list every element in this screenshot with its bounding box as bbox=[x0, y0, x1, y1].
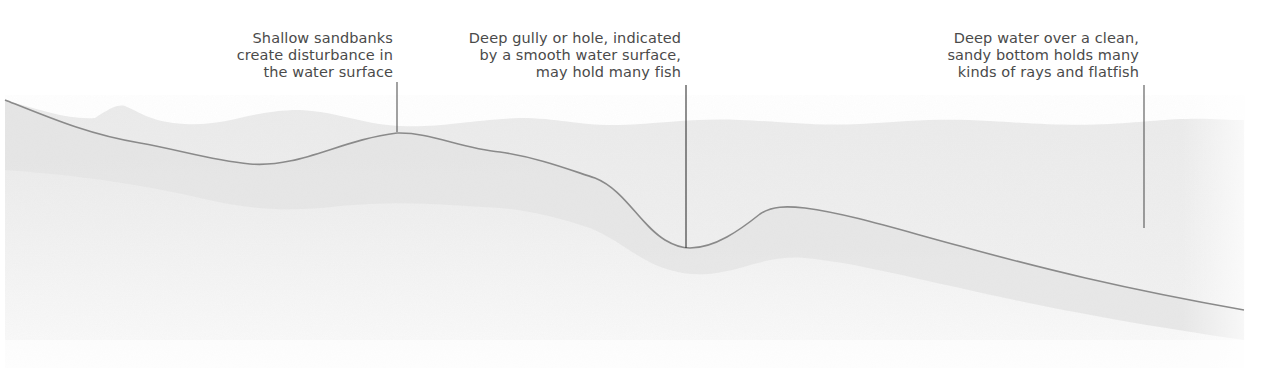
annotation-gully-line-1: Deep gully or hole, indicated bbox=[469, 30, 681, 47]
annotation-gully-line-2: by a smooth water surface, bbox=[469, 47, 681, 64]
annotation-gully: Deep gully or hole, indicated by a smoot… bbox=[469, 30, 681, 81]
annotation-sandbanks-line-1: Shallow sandbanks bbox=[237, 30, 393, 47]
annotation-deep-water: Deep water over a clean, sandy bottom ho… bbox=[947, 30, 1139, 81]
annotation-deep-water-line-1: Deep water over a clean, bbox=[947, 30, 1139, 47]
shoreline-cross-section-diagram: Shallow sandbanks create disturbance in … bbox=[0, 0, 1271, 368]
annotation-deep-water-line-2: sandy bottom holds many bbox=[947, 47, 1139, 64]
annotation-gully-line-3: may hold many fish bbox=[469, 64, 681, 81]
annotation-sandbanks-line-3: the water surface bbox=[237, 64, 393, 81]
annotation-deep-water-line-3: kinds of rays and flatfish bbox=[947, 64, 1139, 81]
annotation-sandbanks-line-2: create disturbance in bbox=[237, 47, 393, 64]
annotation-sandbanks: Shallow sandbanks create disturbance in … bbox=[237, 30, 393, 81]
